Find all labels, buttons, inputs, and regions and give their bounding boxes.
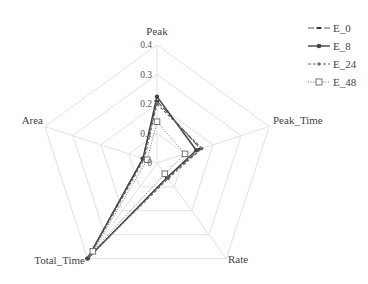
legend-label: E_8 bbox=[333, 40, 351, 52]
legend-label: E_48 bbox=[333, 76, 356, 88]
legend-line-dashdot-icon bbox=[308, 59, 330, 69]
legend-item-e48: E_48 bbox=[308, 73, 356, 91]
axis-label-total-time: Total_Time bbox=[34, 254, 85, 266]
legend-line-dash-icon bbox=[308, 23, 330, 33]
data-point-marker bbox=[194, 148, 198, 152]
data-point-marker bbox=[90, 249, 96, 255]
axis-labels: Peak Peak_Time Rate Total_Time Area bbox=[22, 25, 323, 266]
data-point-marker bbox=[162, 171, 168, 177]
data-point-marker bbox=[154, 119, 160, 125]
legend: E_0 E_8 E_24 E_48 bbox=[308, 19, 356, 91]
legend-item-e8: E_8 bbox=[308, 37, 356, 55]
tick-0.2: 0.2 bbox=[140, 99, 152, 109]
data-point-marker bbox=[155, 94, 159, 98]
axis-label-peak: Peak bbox=[146, 25, 168, 37]
axis-label-peak-time: Peak_Time bbox=[273, 114, 323, 126]
tick-0.4: 0.4 bbox=[140, 40, 152, 50]
legend-item-e24: E_24 bbox=[308, 55, 356, 73]
legend-line-dotted-square-icon bbox=[308, 77, 330, 87]
grid-spoke bbox=[157, 127, 269, 163]
axis-label-rate: Rate bbox=[228, 253, 248, 265]
radar-grid bbox=[45, 45, 269, 258]
tick-0: 0 bbox=[147, 158, 152, 168]
legend-line-solid-circle-icon bbox=[308, 41, 330, 51]
tick-0.3: 0.3 bbox=[140, 70, 152, 80]
radar-series bbox=[85, 94, 204, 260]
tick-0.1: 0.1 bbox=[140, 129, 152, 139]
data-point-marker bbox=[182, 151, 188, 157]
legend-label: E_24 bbox=[333, 58, 356, 70]
axis-label-area: Area bbox=[22, 114, 43, 126]
legend-item-e0: E_0 bbox=[308, 19, 356, 37]
legend-label: E_0 bbox=[333, 22, 351, 34]
